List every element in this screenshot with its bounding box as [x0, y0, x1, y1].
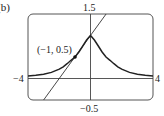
x-max-label: 4 — [155, 74, 160, 84]
panel-label: (b) — [0, 2, 10, 13]
figure: (b) 1.5 −0.5 −4 4 (−1, 0.5) — [0, 0, 164, 116]
point-label: (−1, 0.5) — [37, 45, 72, 55]
tangent-point — [73, 55, 77, 59]
plot-svg — [0, 0, 164, 116]
y-min-label: −0.5 — [80, 104, 98, 114]
x-min-label: −4 — [13, 74, 24, 84]
y-max-label: 1.5 — [83, 3, 96, 13]
